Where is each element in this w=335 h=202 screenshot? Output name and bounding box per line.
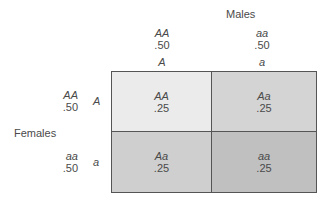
male-gamete-2: a	[250, 57, 274, 68]
cell-frequency: .25	[154, 102, 169, 114]
cell-genotype: Aa	[155, 150, 168, 162]
males-title: Males	[226, 9, 255, 20]
punnett-square: AA .25 Aa .25 Aa .25 aa .25	[111, 71, 317, 193]
male-frequency-1: .50	[150, 40, 174, 51]
cell-frequency: .25	[154, 162, 169, 174]
female-gamete-2: a	[93, 157, 99, 168]
male-frequency-2: .50	[250, 40, 274, 51]
cell-frequency: .25	[256, 102, 271, 114]
cell-AA: AA .25	[112, 72, 212, 132]
cell-Aa-top: Aa .25	[212, 72, 316, 132]
cell-genotype: AA	[154, 90, 169, 102]
cell-Aa-bottom: Aa .25	[112, 132, 212, 192]
male-gamete-1: A	[150, 57, 174, 68]
cell-genotype: Aa	[257, 90, 270, 102]
male-genotype-2: aa	[250, 28, 274, 39]
cell-genotype: aa	[258, 150, 270, 162]
female-frequency-2: .50	[56, 163, 78, 174]
cell-frequency: .25	[256, 162, 271, 174]
females-title: Females	[14, 128, 56, 139]
female-frequency-1: .50	[56, 102, 78, 113]
female-genotype-1: AA	[56, 90, 78, 101]
female-gamete-1: A	[93, 96, 100, 107]
female-genotype-2: aa	[56, 151, 78, 162]
cell-aa: aa .25	[212, 132, 316, 192]
male-genotype-1: AA	[150, 28, 174, 39]
